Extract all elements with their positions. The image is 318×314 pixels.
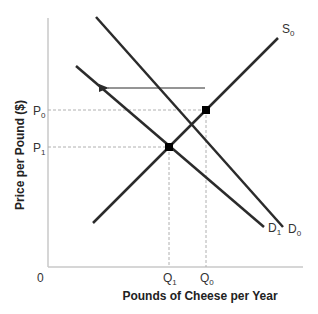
label-p1: P1 xyxy=(33,141,46,157)
demand-curve-d0 xyxy=(96,17,283,227)
label-d0: D0 xyxy=(288,222,302,238)
label-q1: Q1 xyxy=(163,271,177,287)
origin-label: 0 xyxy=(37,271,44,285)
supply-curve-s0 xyxy=(93,38,278,223)
label-s0: S0 xyxy=(282,22,295,38)
supply-demand-diagram: S0 D0 D1 P0 P1 Q1 Q0 0 Pounds of Cheese … xyxy=(0,0,318,314)
label-q0: Q0 xyxy=(200,271,214,287)
equilibrium-point-e1 xyxy=(165,143,173,151)
equilibrium-point-e0 xyxy=(202,106,210,114)
x-axis-title: Pounds of Cheese per Year xyxy=(122,289,277,303)
label-p0: P0 xyxy=(33,104,46,120)
y-axis-title: Price per Pound ($) xyxy=(13,100,27,210)
